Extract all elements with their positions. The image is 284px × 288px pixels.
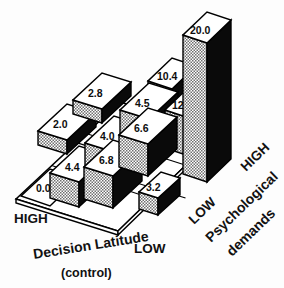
value-label-2-3: 20.0 bbox=[190, 24, 211, 36]
value-label-0-0: 0.0 bbox=[36, 182, 51, 194]
value-label-0-3: 10.4 bbox=[157, 70, 178, 82]
x-axis-subtitle: (control) bbox=[61, 266, 112, 280]
bar-cell-2-3: 20.0 bbox=[183, 12, 231, 182]
x-axis-title: Decision Latitude bbox=[32, 228, 150, 262]
x-axis-tick-high: HIGH bbox=[14, 211, 48, 226]
value-label-0-2: 2.8 bbox=[88, 87, 103, 99]
chart-figure: 0.0 2.0 2.8 10.4 4.4 4.0 bbox=[0, 0, 284, 288]
y-axis-tick-high: HIGH bbox=[238, 140, 273, 174]
value-label-0-1: 2.0 bbox=[53, 118, 68, 130]
value-label-1-2: 4.5 bbox=[135, 97, 150, 109]
value-label-1-0: 4.4 bbox=[65, 161, 80, 173]
value-label-2-1: 6.6 bbox=[134, 122, 149, 134]
value-label-2-2: 3.2 bbox=[146, 181, 161, 193]
bar-chart-3d: 0.0 2.0 2.8 10.4 4.4 4.0 bbox=[0, 0, 284, 288]
value-label-2-0: 6.8 bbox=[99, 154, 114, 166]
